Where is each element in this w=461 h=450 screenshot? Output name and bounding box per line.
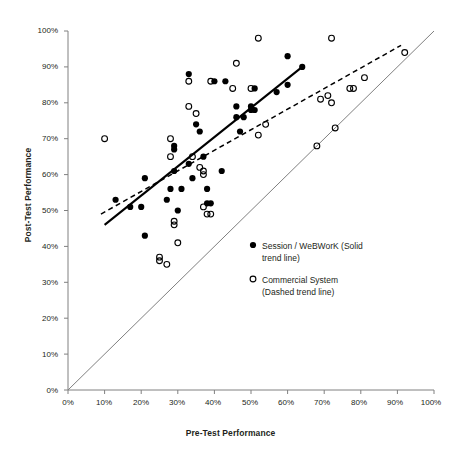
plot-area	[0, 0, 461, 450]
data-point	[208, 211, 214, 217]
legend-label-line2: (Dashed trend line)	[262, 287, 334, 297]
data-point	[351, 86, 357, 92]
data-point	[201, 168, 207, 174]
series-points-commercial-system	[102, 35, 408, 267]
data-point	[197, 165, 203, 171]
data-point	[175, 207, 181, 213]
data-point	[186, 103, 192, 109]
data-point	[252, 107, 258, 113]
legend-markers	[250, 242, 256, 282]
data-point	[171, 168, 177, 174]
data-point	[167, 186, 173, 192]
x-axis-ticks	[68, 390, 434, 394]
data-point	[200, 154, 206, 160]
data-point	[164, 197, 170, 203]
data-point	[164, 261, 170, 267]
legend-entry-commercial-system: Commercial System (Dashed trend line)	[262, 274, 412, 298]
data-point	[362, 75, 368, 81]
dashed-trend-line	[101, 45, 401, 214]
data-point	[329, 35, 335, 41]
solid-trend-line	[105, 67, 303, 225]
legend-entry-session-webwork: Session / WeBWorK (Solid trend line)	[262, 240, 412, 264]
legend-open-circle-icon	[250, 276, 256, 282]
data-point	[233, 114, 239, 120]
data-point	[219, 168, 225, 174]
data-point	[171, 143, 177, 149]
legend-label-line1: Commercial System	[262, 275, 338, 285]
data-point	[186, 161, 192, 167]
data-point	[318, 96, 324, 102]
y-axis-ticks	[64, 31, 68, 390]
data-point	[233, 60, 239, 66]
data-point	[168, 136, 174, 142]
data-point	[193, 111, 199, 117]
series-points-session-webwork	[112, 53, 305, 239]
data-point	[186, 78, 192, 84]
data-point	[208, 200, 214, 206]
data-point	[237, 128, 243, 134]
data-point	[168, 154, 174, 160]
data-point	[241, 114, 247, 120]
data-point	[233, 103, 239, 109]
legend-filled-circle-icon	[250, 242, 256, 248]
data-point	[255, 132, 261, 138]
data-point	[255, 35, 261, 41]
data-point	[138, 204, 144, 210]
data-point	[201, 204, 207, 210]
data-point	[193, 121, 199, 127]
data-point	[175, 240, 181, 246]
data-point	[204, 186, 210, 192]
data-point	[222, 78, 228, 84]
data-point	[142, 175, 148, 181]
data-point	[325, 93, 331, 99]
scatter-chart: Post-Test Performance Pre-Test Performan…	[0, 0, 461, 450]
data-point	[285, 53, 291, 59]
data-point	[189, 175, 195, 181]
data-point	[142, 233, 148, 239]
data-point	[230, 86, 236, 92]
data-point	[178, 186, 184, 192]
data-point	[171, 218, 177, 224]
data-point	[186, 71, 192, 77]
data-point	[274, 89, 280, 95]
data-point	[197, 128, 203, 134]
legend-label-line2: trend line)	[262, 253, 300, 263]
data-point	[402, 50, 408, 56]
data-point	[157, 258, 163, 264]
legend-label-line1: Session / WeBWorK (Solid	[262, 241, 363, 251]
data-point	[102, 136, 108, 142]
data-point	[329, 100, 335, 106]
data-point	[127, 204, 133, 210]
data-point	[112, 197, 118, 203]
data-point	[299, 64, 305, 70]
data-point	[285, 82, 291, 88]
